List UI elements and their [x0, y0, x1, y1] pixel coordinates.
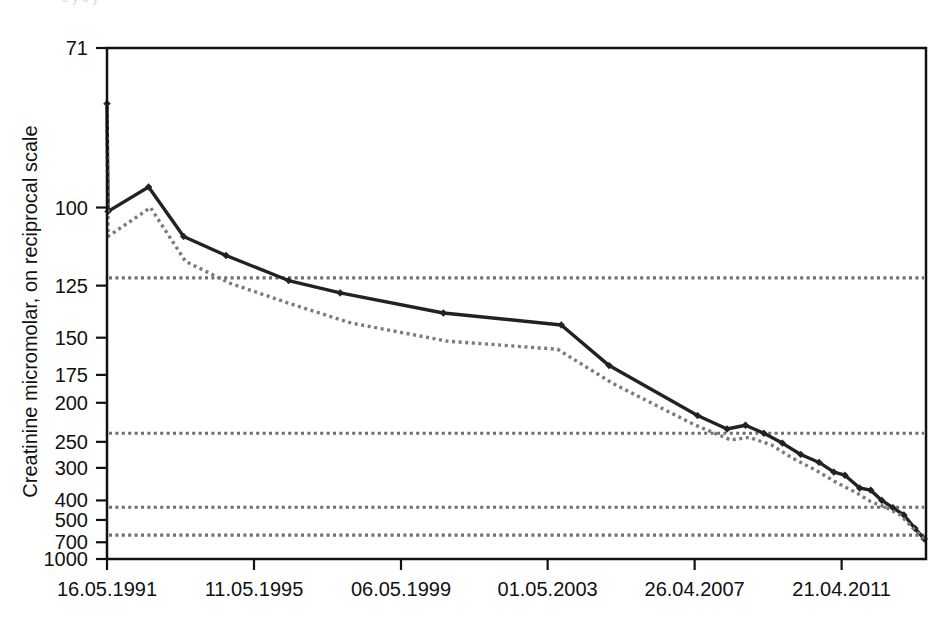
- y-tick-label: 150: [0, 326, 88, 349]
- data-point-marker: [440, 310, 447, 317]
- x-tick-label: 16.05.1991: [57, 578, 157, 601]
- y-tick-label: 250: [0, 430, 88, 453]
- y-tick-label: 1000: [0, 548, 88, 571]
- x-tick-label: 11.05.1995: [205, 578, 304, 601]
- y-tick-label: 125: [0, 274, 88, 297]
- axes-group: [107, 48, 926, 559]
- series-group: [104, 100, 928, 542]
- series-line-0: [107, 104, 924, 539]
- y-tick-label: 175: [0, 363, 88, 386]
- reference-lines-group: [109, 278, 924, 535]
- y-tick-label: 100: [0, 196, 88, 219]
- data-point-marker: [337, 290, 344, 297]
- creatinine-reciprocal-chart: o y o y Creatinine micromolar, on recipr…: [0, 0, 946, 626]
- plot-area: [0, 0, 946, 626]
- plot-frame: [107, 48, 926, 559]
- x-tick-label: 01.05.2003: [498, 578, 598, 601]
- y-tick-label: 71: [0, 37, 88, 60]
- x-tick-label: 21.04.2011: [792, 578, 891, 601]
- y-tick-label: 200: [0, 391, 88, 414]
- x-tick-label: 26.04.2007: [645, 578, 745, 601]
- x-tick-label: 06.05.1999: [351, 578, 451, 601]
- tick-marks-group: [96, 48, 842, 570]
- y-tick-label: 500: [0, 508, 88, 531]
- y-tick-label: 300: [0, 456, 88, 479]
